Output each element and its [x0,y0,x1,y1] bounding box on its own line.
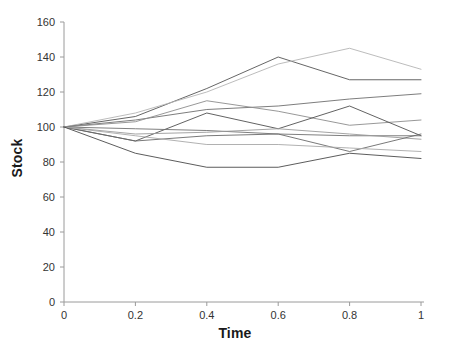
y-tick-label: 160 [37,16,55,28]
y-tick-label: 140 [37,51,55,63]
x-axis-title: Time [0,325,454,341]
x-tick-label: 0.4 [199,309,214,321]
y-tick-label: 80 [43,156,55,168]
x-tick-label: 0 [61,309,67,321]
chart-figure: 02040608010012014016000.20.40.60.81 Stoc… [0,0,454,363]
x-tick-label: 0.6 [271,309,286,321]
x-tick-label: 1 [418,309,424,321]
y-tick-label: 40 [43,226,55,238]
y-tick-label: 20 [43,261,55,273]
x-tick-label: 0.2 [128,309,143,321]
x-tick-label: 0.8 [342,309,357,321]
y-tick-label: 120 [37,86,55,98]
y-tick-label: 0 [49,296,55,308]
y-tick-label: 60 [43,191,55,203]
line-chart-canvas: 02040608010012014016000.20.40.60.81 [0,0,454,363]
y-axis-title: Stock [9,118,25,198]
x-axis-title-text: Time [218,325,251,341]
chart-background [0,0,454,363]
y-tick-label: 100 [37,121,55,133]
